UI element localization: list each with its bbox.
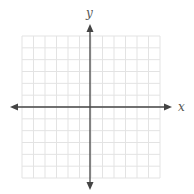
y-axis-top-arrow-icon [87, 24, 94, 32]
x-axis-right-arrow-icon [164, 104, 172, 111]
x-axis-left-arrow-icon [10, 104, 18, 111]
y-axis-bottom-arrow-icon [87, 182, 94, 190]
coordinate-plane: x y [0, 0, 194, 194]
y-axis-label: y [85, 6, 93, 20]
x-axis-label: x [178, 100, 185, 114]
